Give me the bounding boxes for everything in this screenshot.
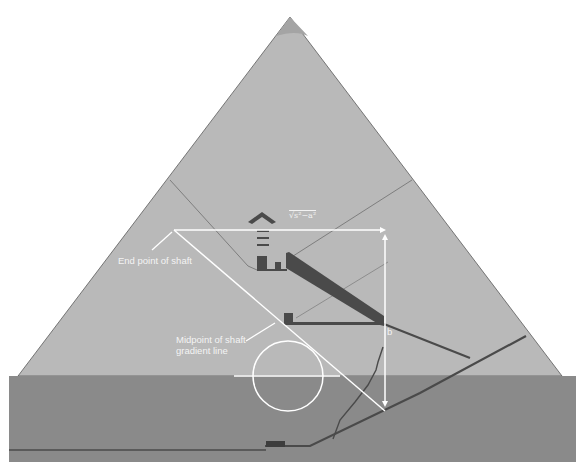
horizontal-passage [284, 322, 382, 325]
relieving-bar [257, 237, 269, 239]
subterranean-chamber [266, 441, 285, 447]
formula-label: √s²−a² [289, 210, 316, 220]
kings-chamber [257, 256, 267, 270]
diagram-canvas [0, 0, 576, 462]
midpoint-label-line2: gradient line [176, 345, 228, 356]
chamber-floor [257, 269, 287, 271]
end-point-label: End point of shaft [118, 255, 192, 266]
pyramid-diagram: End point of shaft Midpoint of shaft gra… [0, 0, 576, 462]
midpoint-label-line1: Midpoint of shaft [176, 334, 246, 345]
relieving-bar [257, 244, 269, 246]
antechamber [275, 262, 281, 270]
b-label: b [387, 326, 392, 337]
ground [9, 376, 576, 462]
